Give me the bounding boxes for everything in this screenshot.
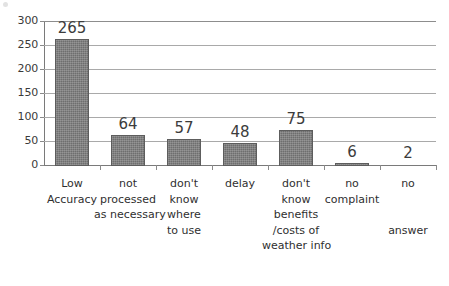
x-category-line: /costs of [262, 223, 330, 239]
x-tick-mark [436, 165, 437, 170]
y-axis-tick-200: 200 [6, 63, 38, 74]
y-axis-tick-100: 100 [6, 111, 38, 122]
bar-slot: 64 [111, 21, 145, 166]
x-category-line: answer [374, 223, 442, 239]
bar-value-label: 6 [347, 145, 357, 160]
bar-value-label: 2 [403, 146, 413, 161]
x-tick-mark [156, 165, 157, 170]
x-category-label: no answer [374, 176, 442, 238]
bar-value-label: 64 [118, 117, 137, 132]
bar[interactable] [55, 39, 89, 166]
bar-chart: 050100150200250300 2656457487562 LowAccu… [0, 0, 449, 286]
bar[interactable] [335, 163, 369, 166]
x-axis-category-labels: LowAccuracynotprocessedas necessarydon't… [44, 176, 437, 284]
bar[interactable] [167, 139, 201, 166]
x-tick-mark [324, 165, 325, 170]
x-category-line: no [374, 176, 442, 192]
bar[interactable] [279, 130, 313, 166]
bar-value-label: 57 [174, 121, 193, 136]
bar[interactable] [111, 135, 145, 166]
bar-value-label: 48 [230, 125, 249, 140]
bar-slot: 265 [55, 21, 89, 166]
x-category-line: where [150, 207, 218, 223]
x-tick-mark [212, 165, 213, 170]
bar-slot: 57 [167, 21, 201, 166]
bar-slot: 2 [391, 21, 425, 166]
bar-value-label: 265 [58, 21, 87, 36]
y-axis-tick-labels: 050100150200250300 [4, 0, 38, 172]
x-tick-mark [268, 165, 269, 170]
y-axis-tick-250: 250 [6, 39, 38, 50]
y-axis-tick-300: 300 [6, 15, 38, 26]
bar-slot: 6 [335, 21, 369, 166]
y-axis-tick-0: 0 [6, 159, 38, 170]
x-category-line: to use [150, 223, 218, 239]
x-tick-mark [100, 165, 101, 170]
bar-slot: 48 [223, 21, 257, 166]
x-category-line: know [150, 192, 218, 208]
bar-series: 2656457487562 [44, 21, 437, 166]
bar-value-label: 75 [286, 112, 305, 127]
y-axis-tick-150: 150 [6, 87, 38, 98]
bar[interactable] [223, 143, 257, 166]
x-tick-mark [380, 165, 381, 170]
bar-slot: 75 [279, 21, 313, 166]
y-axis-tick-50: 50 [6, 135, 38, 146]
x-category-line: benefits [262, 207, 330, 223]
x-category-line: weather info [262, 238, 330, 254]
